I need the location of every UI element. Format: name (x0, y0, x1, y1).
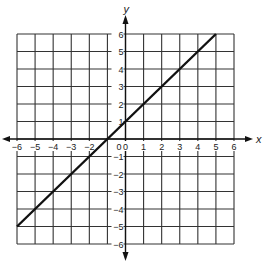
x-tick-label: 0 (123, 142, 128, 152)
y-axis-up-arrow-icon (123, 15, 129, 24)
y-tick-label: −2 (113, 170, 123, 180)
x-axis-right-arrow-icon (245, 136, 253, 142)
coordinate-plane: −6−5−4−3−20123456−6−5−4−3−2−1123456 x y … (0, 0, 268, 269)
y-tick-label: −1 (113, 152, 123, 162)
y-tick-label: 2 (118, 100, 123, 110)
x-tick-label: 5 (213, 142, 218, 152)
y-axis-down-arrow-icon (123, 252, 129, 261)
y-axis-label: y (123, 3, 131, 15)
y-tick-label: 3 (118, 82, 123, 92)
x-tick-label: −4 (48, 142, 58, 152)
x-axis-left-arrow-icon (2, 136, 10, 142)
x-axis-label: x (255, 133, 262, 145)
y-tick-label: −4 (113, 205, 123, 215)
x-tick-label: 1 (141, 142, 146, 152)
x-tick-label: 4 (195, 142, 200, 152)
x-tick-label: 2 (159, 142, 164, 152)
x-tick-label: −3 (66, 142, 76, 152)
y-tick-label: 4 (118, 65, 123, 75)
x-tick-label: 3 (177, 142, 182, 152)
data-series (17, 34, 216, 227)
origin-label: 0 (117, 142, 122, 152)
x-tick-label: −6 (12, 142, 22, 152)
y-tick-label: −6 (113, 240, 123, 250)
x-tick-label: −2 (84, 142, 94, 152)
x-tick-label: 6 (231, 142, 236, 152)
x-tick-label: −5 (30, 142, 40, 152)
y-tick-label: 6 (118, 30, 123, 40)
line-series (17, 34, 216, 227)
y-tick-label: −3 (113, 187, 123, 197)
y-tick-label: −5 (113, 222, 123, 232)
y-tick-label: 5 (118, 47, 123, 57)
